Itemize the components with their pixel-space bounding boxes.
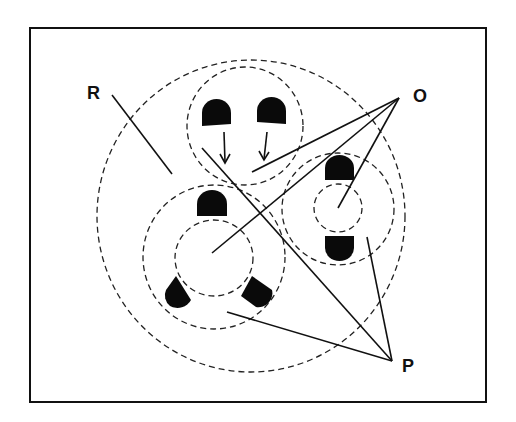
leader-P-1 bbox=[202, 148, 392, 361]
leader-P-2 bbox=[227, 312, 392, 361]
lower-left-top-shape bbox=[197, 190, 227, 216]
lower-left-inner-circle bbox=[175, 220, 253, 296]
label-R: R bbox=[87, 83, 100, 103]
lower-left-group bbox=[143, 185, 285, 329]
label-O: O bbox=[413, 86, 427, 106]
right-group bbox=[282, 153, 394, 265]
arrow-right-icon bbox=[259, 132, 269, 160]
top-group bbox=[187, 67, 303, 185]
right-top-shape bbox=[325, 155, 354, 180]
diagram-canvas: R O P bbox=[0, 0, 516, 422]
leader-lines bbox=[112, 95, 399, 361]
leader-O-2 bbox=[212, 98, 399, 253]
outer-dashed-circle bbox=[97, 60, 405, 372]
top-right-shape bbox=[257, 97, 286, 124]
right-bottom-shape bbox=[325, 236, 354, 261]
leader-R bbox=[112, 95, 172, 174]
lower-left-bottom-left-shape bbox=[165, 276, 191, 308]
top-left-shape bbox=[202, 99, 231, 126]
arrow-left-icon bbox=[220, 132, 230, 163]
label-P: P bbox=[402, 356, 414, 376]
top-dashed-circle bbox=[187, 67, 303, 185]
leader-P-3 bbox=[367, 237, 392, 361]
